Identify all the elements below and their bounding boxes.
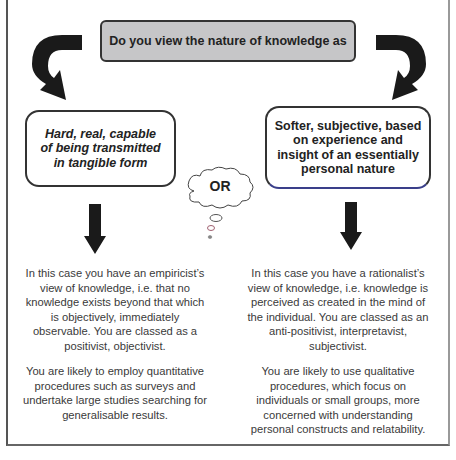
option-box-soft: Softer, subjective, based on experience … [265, 106, 431, 189]
question-box: Do you view the nature of knowledge as [100, 20, 356, 62]
arrow-down-icon [340, 202, 362, 250]
option-hard-text: Hard, real, capable of being transmitted… [40, 127, 160, 171]
or-label: OR [202, 178, 238, 194]
empiricist-description: In this case you have an empiricist’s vi… [8, 266, 222, 354]
rationalist-description: In this case you have a rationalist’s vi… [230, 266, 446, 354]
quantitative-description: You are likely to employ quantitative pr… [8, 364, 222, 422]
curved-arrow-down-left-icon [28, 34, 84, 100]
option-soft-text: Softer, subjective, based on experience … [275, 119, 422, 177]
option-box-hard: Hard, real, capable of being transmitted… [25, 110, 176, 187]
qualitative-description: You are likely to use qualitative proced… [230, 364, 446, 437]
arrow-down-icon [84, 204, 106, 254]
curved-arrow-down-right-icon [374, 34, 430, 100]
question-text: Do you view the nature of knowledge as [109, 34, 347, 48]
